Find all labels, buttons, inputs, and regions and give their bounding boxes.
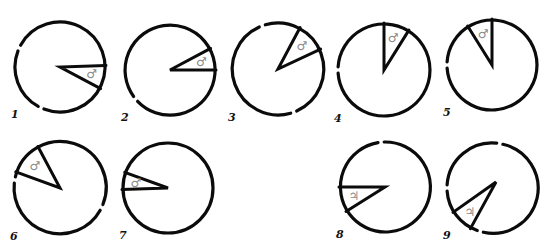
- mars-symbol-icon: ♂: [30, 159, 41, 173]
- panel-2: ♂2: [120, 25, 216, 124]
- panel-1: ♂1: [11, 22, 106, 121]
- mars-symbol-icon: ♂: [297, 39, 308, 53]
- sector-wedge: [170, 48, 216, 70]
- panel-number-label: 4: [334, 112, 342, 125]
- panel-number-label: 1: [11, 108, 19, 121]
- mars-symbol-icon: ♂: [86, 67, 97, 81]
- panel-number-label: 2: [120, 111, 129, 124]
- sector-wedge: [122, 172, 168, 189]
- panel-6: ♂6: [10, 141, 106, 243]
- panel-number-label: 8: [336, 228, 344, 241]
- jupiter-symbol-icon: ♃: [349, 189, 360, 203]
- panel-4: ♂4: [334, 23, 430, 125]
- panel-number-label: 9: [443, 229, 451, 242]
- mars-symbol-icon: ♂: [131, 176, 142, 190]
- sector-wedge: [60, 65, 106, 88]
- panel-number-label: 7: [119, 229, 127, 242]
- mars-symbol-icon: ♂: [478, 27, 489, 41]
- panel-5: ♂5: [443, 19, 537, 119]
- panel-number-label: 3: [228, 111, 236, 124]
- panel-7: ♂7: [119, 143, 213, 242]
- panel-3: ♂3: [228, 23, 324, 124]
- jupiter-symbol-icon: ♃: [465, 205, 476, 219]
- planetary-sector-diagram: ♂1♂2♂3♂4♂5♂6♂7♃8♃9: [0, 0, 557, 247]
- panel-number-label: 5: [443, 106, 451, 119]
- panel-number-label: 6: [10, 230, 18, 243]
- panel-9: ♃9: [443, 143, 538, 242]
- mars-symbol-icon: ♂: [196, 55, 207, 69]
- mars-symbol-icon: ♂: [388, 31, 399, 45]
- panel-8: ♃8: [336, 142, 430, 241]
